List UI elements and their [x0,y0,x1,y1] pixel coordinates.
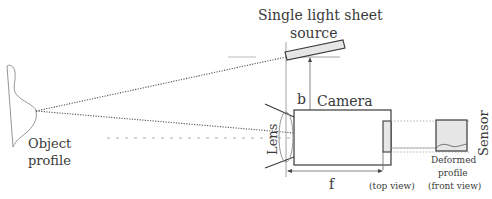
front-view-label: (front view) [428,181,481,191]
sensor-front-view [436,120,467,151]
light-sheet-triangulation-diagram: Single light sheet source Object profile… [0,0,492,199]
lens-label: Lens [265,124,280,155]
distance-b-label: b [297,91,306,107]
sensor-label: Sensor [476,110,491,156]
light-ray-to-source [36,57,286,111]
deformed-profile-line1: Deformed [431,155,476,165]
object-profile-shape [7,65,36,147]
source-title-line2: source [290,25,337,41]
focal-f-label: f [329,176,336,192]
top-view-label: (top view) [369,181,415,191]
camera-body [294,110,391,165]
focal-length-f-arrow [287,169,383,173]
object-label-line2: profile [28,153,71,168]
camera-label: Camera [317,93,373,109]
object-label-line1: Object [28,136,72,151]
source-title-line1: Single light sheet [258,7,383,23]
deformed-profile-line2: profile [438,168,468,178]
